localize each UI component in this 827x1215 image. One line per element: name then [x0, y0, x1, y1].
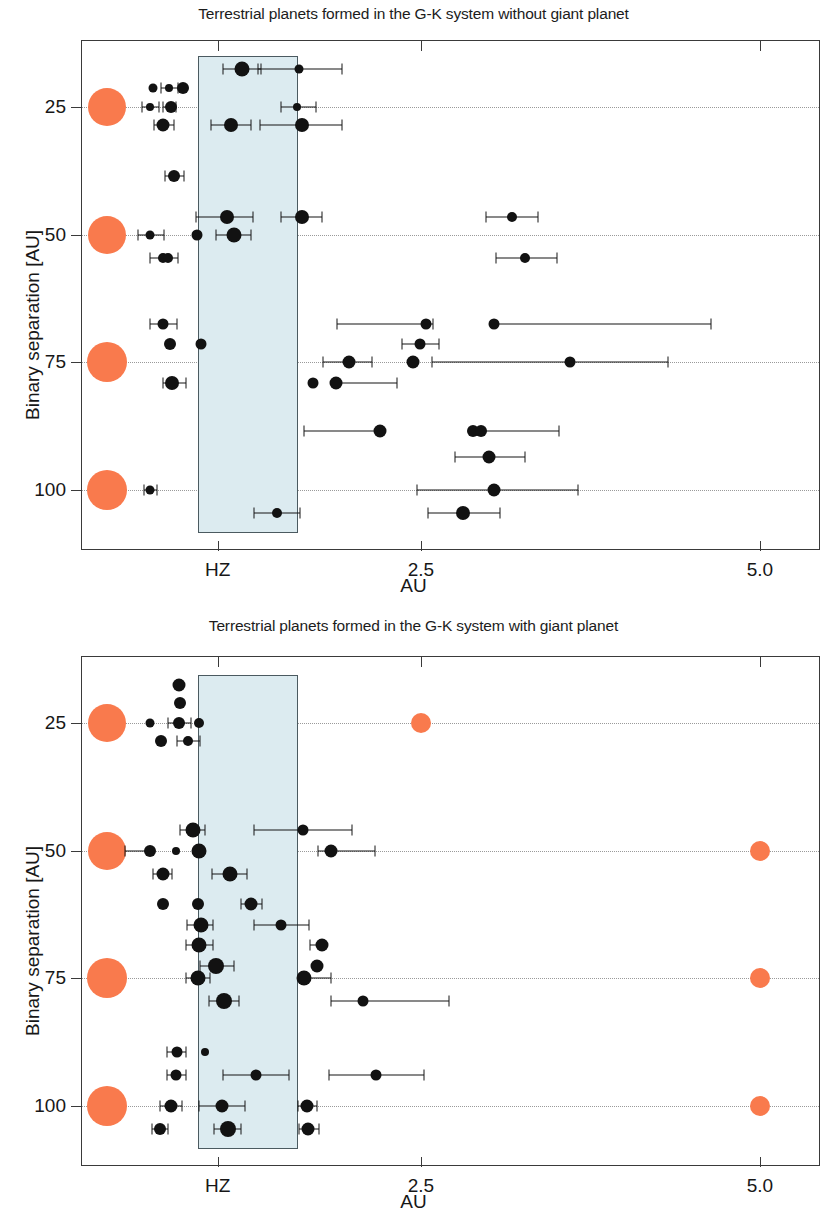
error-bar-cap — [181, 1100, 182, 1111]
error-bar-cap — [328, 1070, 329, 1081]
y-axis-tick-mark — [71, 978, 82, 979]
error-bar-cap — [191, 718, 192, 729]
terrestrial-planet-marker — [275, 919, 286, 930]
error-bar-cap — [331, 973, 332, 984]
terrestrial-planet-marker — [155, 735, 167, 747]
terrestrial-planet-marker — [165, 101, 177, 113]
terrestrial-planet-marker — [144, 845, 156, 857]
terrestrial-planet-marker — [172, 679, 185, 692]
y-axis-tick-mark — [71, 851, 82, 852]
error-bar-cap — [247, 868, 248, 879]
error-bar-cap — [525, 451, 526, 462]
error-bar-cap — [199, 960, 200, 971]
error-bar-cap — [433, 319, 434, 330]
error-bar-cap — [210, 120, 211, 131]
terrestrial-planet-marker — [185, 823, 200, 838]
y-axis-title: Binary separation [AU] — [22, 846, 44, 1036]
error-bar-cap — [280, 102, 281, 113]
error-bar-cap — [342, 64, 343, 75]
y-axis-tick-label: 25 — [45, 712, 66, 734]
terrestrial-planet-marker — [168, 170, 180, 182]
terrestrial-planet-marker — [156, 867, 169, 880]
terrestrial-planet-marker — [507, 212, 517, 222]
error-bar-cap — [304, 426, 305, 437]
error-bar-cap — [151, 1123, 152, 1134]
giant-planet-marker — [87, 958, 127, 998]
error-bar — [432, 362, 668, 363]
y-axis-tick-label: 100 — [34, 1095, 66, 1117]
terrestrial-planet-marker — [215, 1099, 228, 1112]
panel-title: Terrestrial planets formed in the G-K sy… — [0, 5, 827, 23]
terrestrial-planet-marker — [343, 356, 356, 369]
terrestrial-planet-marker — [293, 103, 301, 111]
terrestrial-planet-marker — [157, 119, 170, 132]
x-axis-tick-mark — [421, 541, 422, 551]
error-bar-cap — [162, 102, 163, 113]
terrestrial-planet-marker — [177, 82, 189, 94]
giant-planet-marker — [750, 841, 770, 861]
terrestrial-planet-marker — [174, 697, 186, 709]
terrestrial-planet-marker — [295, 210, 309, 224]
error-bar-cap — [416, 484, 417, 495]
terrestrial-planet-marker — [165, 376, 179, 390]
terrestrial-planet-marker — [165, 84, 173, 92]
error-bar-cap — [251, 229, 252, 240]
error-bar-cap — [153, 120, 154, 131]
terrestrial-planet-marker — [371, 1070, 382, 1081]
gridline — [82, 1106, 819, 1107]
terrestrial-planet-marker — [298, 825, 309, 836]
gridline — [82, 107, 819, 108]
y-axis-tick-label: 50 — [45, 224, 66, 246]
error-bar-cap — [402, 339, 403, 350]
error-bar-cap — [261, 899, 262, 910]
terrestrial-planet-marker — [302, 1122, 315, 1135]
terrestrial-planet-marker — [193, 917, 208, 932]
error-bar-cap — [449, 996, 450, 1007]
error-bar-cap — [214, 1123, 215, 1134]
y-axis-tick-mark — [71, 235, 82, 236]
terrestrial-planet-marker — [163, 253, 173, 263]
terrestrial-planet-marker — [488, 483, 501, 496]
error-bar-cap — [253, 919, 254, 930]
error-bar-cap — [281, 211, 282, 222]
terrestrial-planet-marker — [172, 847, 180, 855]
x-axis-tick-mark — [760, 41, 761, 51]
terrestrial-planet-marker — [157, 898, 169, 910]
terrestrial-planet-marker — [307, 377, 318, 388]
error-bar-cap — [183, 171, 184, 182]
terrestrial-planet-marker — [222, 866, 237, 881]
error-bar-cap — [168, 718, 169, 729]
error-bar-cap — [297, 1100, 298, 1111]
error-bar-cap — [259, 120, 260, 131]
terrestrial-planet-marker — [146, 103, 154, 111]
y-axis-title: Binary separation [AU] — [22, 230, 44, 420]
error-bar-cap — [309, 940, 310, 951]
error-bar — [331, 1001, 449, 1002]
habitable-zone-band — [198, 56, 298, 533]
terrestrial-planet-marker — [183, 736, 193, 746]
error-bar-cap — [559, 426, 560, 437]
error-bar-cap — [537, 211, 538, 222]
error-bar-cap — [316, 1100, 317, 1111]
terrestrial-planet-marker — [220, 1121, 236, 1137]
x-axis-tick-mark — [760, 657, 761, 667]
error-bar-cap — [495, 252, 496, 263]
terrestrial-planet-marker — [220, 210, 234, 224]
error-bar-cap — [322, 211, 323, 222]
y-axis-tick-label: 100 — [34, 479, 66, 501]
error-bar-cap — [578, 484, 579, 495]
error-bar-cap — [374, 845, 375, 856]
panel-without-giant-planet: Terrestrial planets formed in the G-K sy… — [0, 0, 827, 600]
error-bar-cap — [486, 211, 487, 222]
error-bar-cap — [396, 377, 397, 388]
y-axis-tick-label: 50 — [45, 840, 66, 862]
error-bar — [336, 382, 397, 383]
error-bar-cap — [241, 899, 242, 910]
error-bar-cap — [198, 1100, 199, 1111]
error-bar-cap — [241, 1123, 242, 1134]
error-bar-cap — [315, 102, 316, 113]
error-bar-cap — [185, 973, 186, 984]
giant-planet-marker — [87, 470, 127, 510]
x-axis-title: AU — [0, 575, 827, 597]
terrestrial-planet-marker — [164, 1099, 177, 1112]
